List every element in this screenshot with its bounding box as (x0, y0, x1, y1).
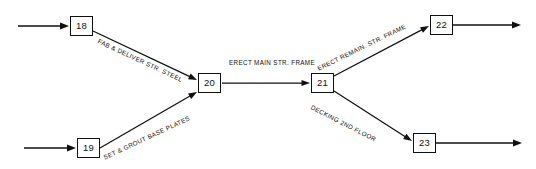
entry-18-arrowhead-icon (60, 23, 69, 30)
edge-18-20-arrowhead-icon (188, 74, 197, 80)
edge-21-23-arrowhead-icon (403, 134, 412, 141)
event-node-label: 20 (204, 78, 215, 88)
event-node-19[interactable]: 19 (77, 138, 100, 158)
event-node-label: 22 (436, 20, 447, 30)
event-node-label: 23 (419, 138, 430, 148)
exit-arrows (436, 22, 522, 147)
event-node-20[interactable]: 20 (198, 73, 221, 93)
event-node-label: 19 (83, 143, 94, 153)
edge-21-23-line (334, 91, 407, 138)
event-node-21[interactable]: 21 (311, 73, 334, 93)
event-node-label: 18 (76, 21, 87, 31)
activity-arrows (93, 26, 429, 148)
entry-19-arrowhead-icon (67, 145, 76, 152)
event-node-23[interactable]: 23 (413, 133, 436, 153)
activity-label-20-21: ERECT MAIN STR. FRAME (229, 60, 315, 66)
edge-21-22-arrowhead-icon (420, 26, 429, 33)
exit-23-arrowhead-icon (513, 140, 522, 147)
event-node-22[interactable]: 22 (430, 15, 453, 35)
edge-20-21-arrowhead-icon (302, 80, 311, 86)
entry-arrows (18, 23, 76, 152)
network-diagram: 181920212223 FAB & DELIVER STR. STEELSET… (0, 0, 536, 169)
edge-18-20-line (93, 31, 191, 77)
edge-19-20-arrowhead-icon (188, 92, 197, 99)
event-node-label: 21 (317, 78, 328, 88)
event-node-18[interactable]: 18 (70, 16, 93, 36)
exit-22-arrowhead-icon (512, 22, 521, 29)
